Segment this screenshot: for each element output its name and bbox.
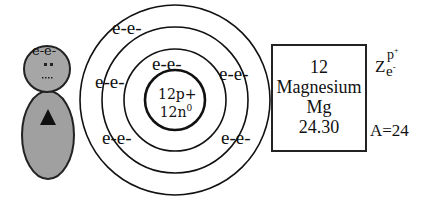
- atomic-mass: 24.30: [273, 118, 365, 138]
- mass-number: A=24: [370, 122, 409, 139]
- electron-label-outer-top: e-e-: [112, 18, 142, 37]
- element-card: 12 Magnesium Mg 24.30: [271, 44, 367, 152]
- electron-label-mid-left: e-e-: [95, 72, 125, 91]
- electron-label-low-right: e-e-: [221, 128, 251, 147]
- nucleus: 12p+ 12n0: [158, 87, 194, 119]
- electron-label-inner-top: e-e-: [152, 54, 182, 73]
- electron-label-low-left: e-e-: [102, 128, 132, 147]
- proton-symbol: p+: [387, 47, 399, 62]
- neutron-count: 12n0: [158, 104, 194, 119]
- element-name: Magnesium: [273, 78, 365, 98]
- electron-symbol: e-: [386, 63, 396, 79]
- proton-count: 12p+: [158, 87, 194, 101]
- z-symbol: Z: [375, 58, 385, 75]
- person-icon: [22, 46, 74, 179]
- atomic-number: 12: [273, 58, 365, 78]
- head-electron-label: e-e-: [32, 44, 56, 57]
- element-symbol: Mg: [273, 98, 365, 118]
- electron-label-mid-right: e-e-: [219, 64, 249, 83]
